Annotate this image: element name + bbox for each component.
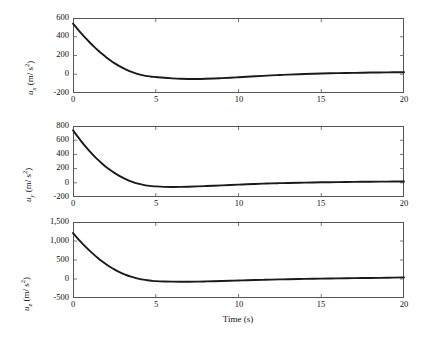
ytick-uy-600: 600 (25, 135, 69, 144)
xtick-ux-5: 5 (143, 95, 169, 104)
xtick-uy-0: 0 (60, 199, 86, 208)
ytick-ux-400: 400 (25, 31, 69, 40)
xtick-uy-10: 10 (226, 199, 252, 208)
xtick-uz-0: 0 (60, 300, 86, 309)
subplot-ux: ux (m/ s2) 600 400 200 0 -200 0 5 10 15 … (0, 0, 429, 112)
xtick-uy-20: 20 (391, 199, 417, 208)
xtick-uz-10: 10 (226, 300, 252, 309)
x-axis-label: Time (s) (188, 314, 288, 324)
ytick-uz-1500: 1,500 (19, 217, 69, 226)
ytick-uz-500: 500 (19, 255, 69, 264)
ytick-ux-0: 0 (25, 69, 69, 78)
xtick-uy-15: 15 (308, 199, 334, 208)
xtick-uz-5: 5 (143, 300, 169, 309)
xtick-ux-0: 0 (60, 95, 86, 104)
subplot-uy: uy (m/ s2) 800 600 400 200 0 -200 0 5 10… (0, 108, 429, 218)
xtick-uy-5: 5 (143, 199, 169, 208)
xtick-uz-20: 20 (391, 300, 417, 309)
ytick-uz-0: 0 (19, 274, 69, 283)
ytick-ux-200: 200 (25, 50, 69, 59)
xtick-ux-20: 20 (391, 95, 417, 104)
xtick-ux-10: 10 (226, 95, 252, 104)
xtick-uz-15: 15 (308, 300, 334, 309)
ytick-uy-0: 0 (25, 178, 69, 187)
ytick-ux-600: 600 (25, 13, 69, 22)
xtick-ux-15: 15 (308, 95, 334, 104)
ytick-uy-800: 800 (25, 121, 69, 130)
figure-canvas: ux (m/ s2) 600 400 200 0 -200 0 5 10 15 … (0, 0, 429, 343)
subplot-uz: uz (m/ s2) 1,500 1,000 500 0 -500 0 5 10… (0, 214, 429, 343)
ytick-uy-400: 400 (25, 149, 69, 158)
ytick-uy-200: 200 (25, 163, 69, 172)
ytick-uz-1000: 1,000 (19, 236, 69, 245)
